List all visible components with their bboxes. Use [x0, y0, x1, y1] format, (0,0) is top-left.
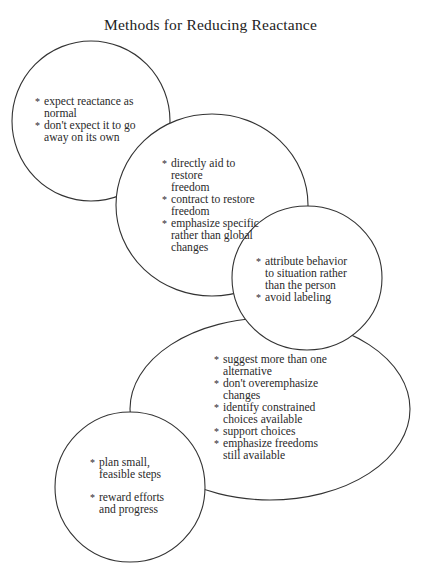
bubble-item: avoid labeling [256, 292, 356, 304]
bubble-choices: suggest more than one alternative don't … [214, 354, 338, 462]
bubble-item: contract to restore freedom [162, 194, 272, 218]
bubble-attribute: attribute behavior to situation rather t… [256, 256, 356, 304]
bubble-item: emphasize freedoms still available [214, 438, 338, 462]
bubble-item: directly aid to restore freedom [162, 158, 243, 194]
bubble-shapes [0, 0, 421, 574]
bubble-expect: expect reactance as normal don't expect … [35, 96, 153, 144]
bubble-item: expect reactance as normal [35, 96, 153, 120]
bubble-item: reward efforts and progress [90, 492, 170, 516]
bubble-item: emphasize specific rather than global ch… [162, 218, 265, 254]
bubble-item: plan small, feasible steps [90, 457, 170, 481]
bubble-item: don't expect it to go away on its own [35, 120, 153, 144]
bubble-steps: plan small, feasible steps reward effort… [90, 457, 170, 516]
bubble-item: don't overemphasize changes [214, 378, 338, 402]
bubble-item: attribute behavior to situation rather t… [256, 256, 356, 292]
bubble-item: suggest more than one alternative [214, 354, 338, 378]
bubble-item: identify constrained choices available [214, 402, 338, 426]
bubble-restore: directly aid to restore freedom contract… [162, 158, 272, 254]
